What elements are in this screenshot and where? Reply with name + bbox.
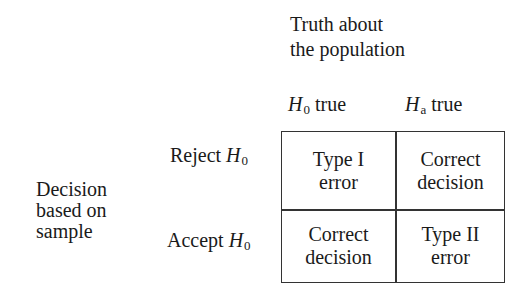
row-label-prefix: Accept	[167, 229, 229, 251]
column-header-title-line2: the population	[290, 38, 405, 60]
column-label-h0-true: H0 true	[288, 93, 346, 121]
row-header-title-line2: based on	[36, 199, 107, 221]
cell-line1: Type II	[421, 223, 479, 246]
hypothesis-symbol: H	[405, 93, 419, 115]
cell-line2: decision	[305, 246, 372, 269]
cell-line1: Correct	[309, 223, 369, 246]
cell-reject-ha-true: Correct decision	[397, 132, 504, 209]
hypothesis-subscript: 0	[244, 238, 251, 253]
cell-line2: error	[431, 246, 470, 269]
cell-line2: error	[319, 171, 358, 194]
cell-line1: Correct	[421, 148, 481, 171]
row-label-prefix: Reject	[170, 144, 226, 166]
row-label-reject-h0: Reject H0	[170, 144, 248, 172]
cell-line2: decision	[417, 171, 484, 194]
decision-matrix: Type I error Correct decision Correct de…	[281, 131, 505, 283]
hypothesis-subscript: 0	[242, 153, 249, 168]
row-header-title-line1: Decision	[36, 178, 107, 200]
hypothesis-symbol: H	[288, 93, 302, 115]
hypothesis-symbol: H	[229, 229, 243, 251]
cell-line1: Type I	[313, 148, 364, 171]
column-label-ha-true: Ha true	[405, 93, 462, 121]
row-label-accept-h0: Accept H0	[167, 229, 251, 257]
hypothesis-symbol: H	[226, 144, 240, 166]
row-header-title-line3: sample	[36, 220, 93, 242]
column-label-suffix: true	[310, 93, 346, 115]
column-header-title-line1: Truth about	[290, 13, 383, 35]
cell-accept-ha-true: Type II error	[397, 211, 504, 281]
cell-accept-h0-true: Correct decision	[282, 211, 395, 281]
column-label-suffix: true	[426, 93, 462, 115]
cell-reject-h0-true: Type I error	[282, 132, 395, 209]
